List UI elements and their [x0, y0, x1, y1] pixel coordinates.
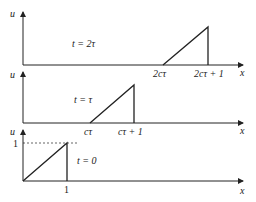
x-axis-label: x	[239, 125, 245, 136]
y-axis-label: u	[10, 8, 15, 19]
y-axis-label: u	[10, 69, 15, 80]
tick-label-end: cτ + 1	[118, 126, 143, 137]
panel-t-tau: u x t = τ cτ cτ + 1	[10, 69, 245, 137]
time-label: t = τ	[74, 94, 93, 105]
x-axis-label: x	[239, 185, 245, 196]
panel-t-2tau: u x t = 2τ 2cτ 2cτ + 1	[10, 8, 245, 79]
time-label: t = 0	[77, 155, 97, 166]
tick-label-start: 2cτ	[153, 68, 166, 79]
y-axis-label: u	[10, 126, 15, 137]
wave-translation-diagram: u x t = 2τ 2cτ 2cτ + 1 u x t = τ cτ cτ +…	[0, 0, 256, 202]
triangle-pulse	[163, 27, 208, 65]
x-axis-label: x	[239, 67, 245, 78]
tick-label-start: cτ	[84, 126, 92, 137]
tick-label: 1	[64, 184, 69, 195]
time-label: t = 2τ	[72, 38, 96, 49]
y-tick-label: 1	[13, 138, 18, 149]
triangle-pulse	[23, 143, 67, 181]
triangle-pulse	[90, 85, 134, 123]
tick-label-end: 2cτ + 1	[194, 68, 224, 79]
